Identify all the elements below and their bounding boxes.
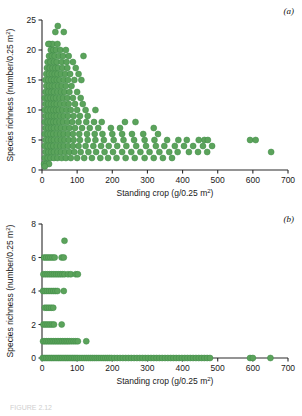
data-point: [90, 143, 96, 149]
scatter-plot-a: 01002003004005006007000510152025Standing…: [0, 0, 302, 200]
data-point: [76, 143, 82, 149]
data-point: [99, 131, 105, 137]
panel-b-label: (b): [284, 214, 295, 224]
y-tick-label: 10: [27, 105, 37, 115]
data-point: [72, 101, 78, 107]
data-point: [66, 125, 72, 131]
panel-a-label: (a): [284, 6, 295, 16]
data-point: [153, 143, 159, 149]
data-point: [54, 288, 60, 294]
data-point: [111, 137, 117, 143]
data-point: [75, 271, 81, 277]
x-tick-label: 700: [281, 363, 295, 373]
data-point: [119, 149, 125, 155]
y-tick-label: 8: [31, 219, 36, 229]
data-point: [87, 125, 93, 131]
data-point: [71, 137, 77, 143]
x-tick-label: 600: [246, 363, 260, 373]
data-point: [76, 71, 82, 77]
data-point: [50, 305, 56, 311]
data-point: [74, 155, 80, 161]
data-point: [74, 107, 80, 113]
data-point: [57, 47, 63, 53]
data-point: [147, 149, 153, 155]
data-point: [151, 155, 157, 161]
data-point: [69, 119, 75, 125]
data-point: [137, 149, 143, 155]
data-point: [73, 65, 79, 71]
data-points: [41, 23, 274, 169]
x-tick-label: 500: [211, 175, 225, 185]
data-point: [169, 155, 175, 161]
data-point: [175, 137, 181, 143]
data-point: [67, 71, 73, 77]
data-point: [186, 149, 192, 155]
data-point: [80, 101, 86, 107]
y-axis-title: Species richness (number/0.25 m2): [5, 224, 15, 357]
data-point: [70, 131, 76, 137]
data-point: [151, 137, 157, 143]
data-point: [78, 95, 84, 101]
data-point: [66, 53, 72, 59]
data-point: [129, 131, 135, 137]
data-point: [60, 53, 66, 59]
data-point: [68, 155, 74, 161]
data-point: [75, 338, 81, 344]
data-point: [204, 149, 210, 155]
data-point: [76, 131, 82, 137]
x-axis-title: Standing crop (g/0.25 m2): [117, 188, 214, 198]
data-point: [69, 83, 75, 89]
data-point: [65, 77, 71, 83]
data-point: [81, 155, 87, 161]
data-point: [61, 255, 67, 261]
data-point: [247, 137, 253, 143]
data-point: [196, 137, 202, 143]
data-point: [110, 149, 116, 155]
data-point: [83, 338, 89, 344]
data-point: [155, 131, 161, 137]
y-tick-label: 25: [27, 15, 37, 25]
x-axis-title: Standing crop (g/0.25 m2): [117, 376, 214, 386]
data-point: [128, 149, 134, 155]
data-point: [122, 119, 128, 125]
data-point: [99, 119, 105, 125]
data-point: [65, 113, 71, 119]
svg-text:Standing crop (g/0.25 m2): Standing crop (g/0.25 m2): [117, 376, 214, 386]
data-point: [142, 137, 148, 143]
data-point: [42, 163, 48, 169]
data-point: [89, 155, 95, 161]
data-point: [83, 107, 89, 113]
svg-text:Species richness (number/0.25: Species richness (number/0.25 m2): [5, 28, 15, 161]
data-point: [156, 149, 162, 155]
data-point: [97, 155, 103, 161]
data-point: [195, 149, 201, 155]
data-point: [164, 137, 170, 143]
data-point: [140, 131, 146, 137]
data-point: [132, 119, 138, 125]
x-tick-label: 700: [281, 175, 295, 185]
data-point: [85, 113, 91, 119]
scatter-plot-b: 010020030040050060070002468Standing crop…: [0, 208, 302, 398]
y-tick-label: 15: [27, 75, 37, 85]
data-point: [268, 149, 274, 155]
x-tick-label: 600: [246, 175, 260, 185]
data-point: [143, 143, 149, 149]
data-point: [102, 149, 108, 155]
data-points: [40, 238, 274, 361]
data-point: [78, 77, 84, 83]
data-point: [166, 149, 172, 155]
data-point: [52, 255, 58, 261]
y-tick-label: 6: [31, 253, 36, 263]
data-point: [101, 137, 107, 143]
data-point: [175, 149, 181, 155]
data-point: [133, 143, 139, 149]
data-point: [172, 143, 178, 149]
data-point: [207, 355, 213, 361]
data-point: [71, 77, 77, 83]
x-tick-label: 200: [105, 175, 119, 185]
x-tick-label: 500: [211, 363, 225, 373]
data-point: [117, 125, 123, 131]
data-point: [71, 113, 77, 119]
data-point: [205, 137, 211, 143]
data-point: [123, 143, 129, 149]
